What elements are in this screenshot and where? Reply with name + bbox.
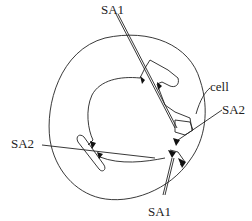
diagram-canvas: SA1 cell SA2 SA2 SA1 bbox=[0, 0, 252, 221]
sa1-top-leader bbox=[116, 14, 175, 128]
label-sa2-right: SA2 bbox=[222, 103, 245, 116]
label-sa1-bottom: SA1 bbox=[148, 205, 171, 218]
mechanism-drawing bbox=[0, 0, 252, 221]
label-sa1-top: SA1 bbox=[101, 3, 124, 16]
sa1-bottom-leader bbox=[163, 158, 172, 195]
inner-ring bbox=[88, 78, 140, 140]
outer-ring bbox=[49, 35, 205, 200]
sa2-right-leader bbox=[178, 110, 222, 140]
label-cell: cell bbox=[210, 80, 229, 93]
label-sa2-left: SA2 bbox=[11, 137, 34, 150]
top-pole bbox=[140, 60, 178, 87]
